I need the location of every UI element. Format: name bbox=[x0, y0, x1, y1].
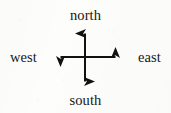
compass-directions-diagram: north west east south bbox=[0, 0, 171, 113]
direction-label-south: south bbox=[0, 93, 171, 108]
direction-label-east: east bbox=[138, 50, 161, 65]
direction-label-north: north bbox=[0, 8, 171, 23]
direction-label-west: west bbox=[10, 50, 37, 65]
